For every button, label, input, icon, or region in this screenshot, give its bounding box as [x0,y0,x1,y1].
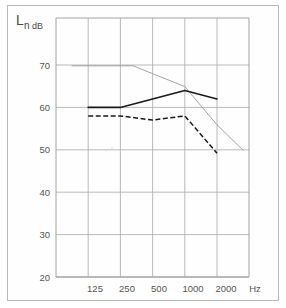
ytick-label-70: 70 [39,60,50,71]
y-axis-tick-labels: 70 60 50 40 30 20 [39,60,50,283]
ytick-label-20: 20 [39,272,50,283]
x-axis-tick-labels: 125 250 500 1000 2000 Hz [87,283,261,294]
ytick-label-40: 40 [39,187,50,198]
y-axis-title-subscript: n [24,20,30,31]
y-axis-title: L n dB [16,12,43,31]
xtick-label-125: 125 [87,283,103,294]
ytick-label-30: 30 [39,229,50,240]
xtick-label-2000: 2000 [215,283,236,294]
xtick-label-1000: 1000 [182,283,203,294]
scan-speckle-2 [106,151,107,152]
xtick-label-500: 500 [151,283,167,294]
ytick-label-60: 60 [39,102,50,113]
acoustic-insulation-chart: 70 60 50 40 30 20 125 250 500 1000 2000 … [0,0,286,308]
x-axis-unit-label: Hz [249,283,261,294]
figure-container: 70 60 50 40 30 20 125 250 500 1000 2000 … [0,0,286,308]
scan-artifacts [106,147,113,151]
scan-speckle-1 [111,147,112,148]
grid-lines [56,18,249,277]
y-axis-title-unit: dB [32,21,43,31]
xtick-label-250: 250 [119,283,135,294]
ytick-label-50: 50 [39,144,50,155]
y-axis-title-main: L [16,12,24,28]
